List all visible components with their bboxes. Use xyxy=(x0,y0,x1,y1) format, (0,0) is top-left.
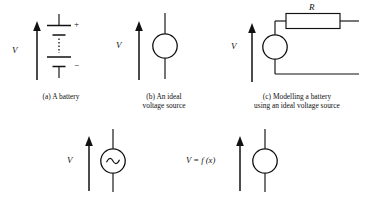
caption-a-line1: (a) A battery xyxy=(0,92,122,101)
voltage-arrow-icon xyxy=(236,136,244,191)
panel-battery: V + − (a) A battery xyxy=(0,0,122,112)
battery-symbol xyxy=(0,0,122,90)
caption-b-line2: voltage source xyxy=(108,101,220,110)
source-circle xyxy=(263,35,287,59)
ideal-source-symbol xyxy=(108,0,220,90)
minus-sign-a: − xyxy=(74,60,79,70)
voltage-label-a: V xyxy=(12,45,18,55)
circuit-symbols-figure: V + − (a) A battery V (b) An ideal volta… xyxy=(0,0,366,197)
voltage-function-label-e: V = f (x) xyxy=(186,155,215,165)
plus-sign-a: + xyxy=(74,19,79,29)
voltage-label-b: V xyxy=(116,40,122,50)
source-circle xyxy=(253,149,277,173)
battery-model-symbol xyxy=(228,0,366,92)
voltage-label-d: V xyxy=(67,155,73,165)
panel-functional-source: V = f (x) xyxy=(186,128,306,197)
panel-ideal-source: V (b) An ideal voltage source xyxy=(108,0,220,120)
caption-c-line2: using an ideal voltage source xyxy=(228,101,366,110)
resistor-label-R: R xyxy=(309,2,315,12)
voltage-arrow-icon xyxy=(248,23,256,82)
voltage-arrow-icon xyxy=(33,21,41,80)
voltage-arrow-icon xyxy=(85,136,93,191)
panel-ac-source: V xyxy=(58,128,158,197)
voltage-label-c: V xyxy=(231,41,237,51)
caption-c-line1: (c) Modelling a battery xyxy=(228,92,366,101)
ac-source-symbol xyxy=(58,128,158,197)
source-circle xyxy=(153,34,177,58)
panel-battery-model: V R (c) Modelling a battery using an ide… xyxy=(228,0,366,120)
voltage-arrow-icon xyxy=(135,21,143,80)
caption-b-line1: (b) An ideal xyxy=(108,92,220,101)
resistor-body xyxy=(286,14,340,29)
